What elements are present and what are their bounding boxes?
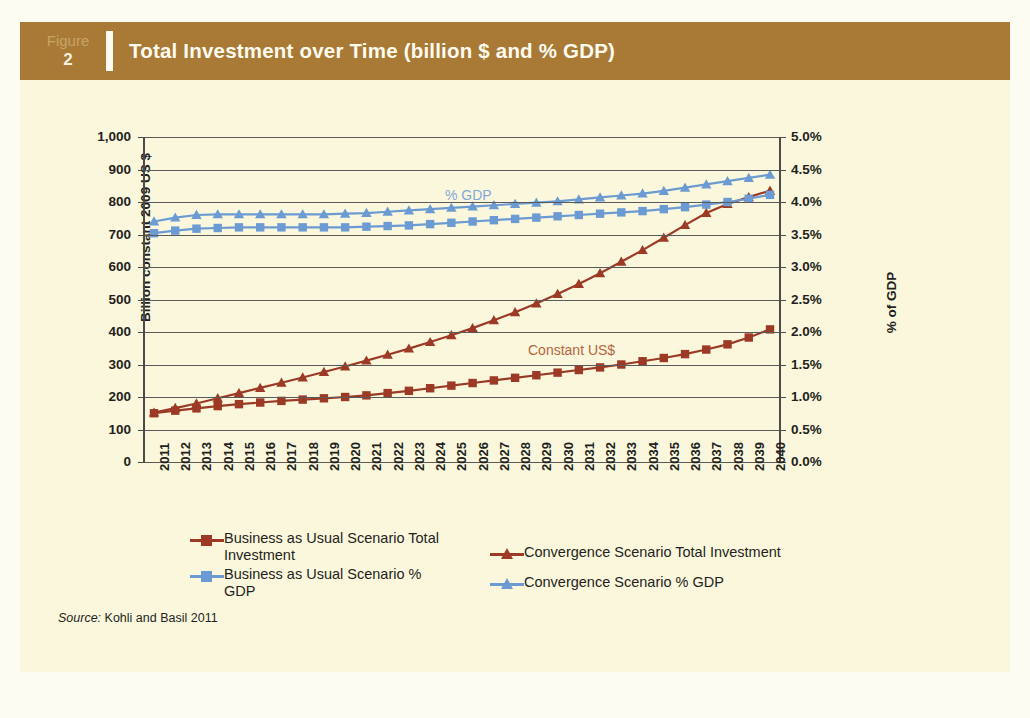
x-axis-tick-label: 2016 — [263, 442, 278, 471]
legend-item[interactable]: Business as Usual Scenario % GDP — [190, 566, 440, 600]
source-text: Kohli and Basil 2011 — [101, 611, 218, 625]
y-axis-tick-right — [779, 430, 786, 431]
y-axis-tick-label-left: 400 — [65, 324, 131, 339]
legend-label: Business as Usual Scenario Total Investm… — [224, 530, 440, 564]
y-axis-tick-label-left: 100 — [65, 422, 131, 437]
series-marker — [681, 350, 689, 358]
y-axis-tick-left — [138, 462, 145, 463]
header-divider-rule — [106, 31, 113, 71]
annotation-pct-gdp: % GDP — [445, 187, 492, 203]
y-axis-tick-left — [138, 137, 145, 138]
series-marker — [575, 211, 583, 219]
series-marker — [235, 223, 243, 231]
gridline — [145, 170, 779, 171]
x-axis-tick-label: 2018 — [306, 442, 321, 471]
series-marker — [235, 400, 243, 408]
series-marker — [616, 257, 626, 266]
series-marker — [511, 215, 519, 223]
x-axis-tick-label: 2029 — [539, 442, 554, 471]
series-marker — [595, 268, 605, 277]
x-axis-tick-label: 2012 — [178, 442, 193, 471]
y-axis-tick-label-left: 500 — [65, 292, 131, 307]
y-axis-tick-right — [779, 235, 786, 236]
x-axis-tick-label: 2031 — [582, 442, 597, 471]
x-axis-tick-label: 2036 — [688, 442, 703, 471]
series-marker — [150, 229, 158, 237]
legend-item[interactable]: Convergence Scenario % GDP — [490, 574, 870, 592]
source-note: Source: Kohli and Basil 2011 — [58, 611, 218, 625]
gridline — [145, 365, 779, 366]
y-axis-tick-label-right: 3.5% — [791, 227, 851, 242]
series-marker — [277, 223, 285, 231]
y-axis-tick-label-right: 4.5% — [791, 162, 851, 177]
x-axis-tick-label: 2033 — [624, 442, 639, 471]
legend-item[interactable]: Convergence Scenario Total Investment — [490, 544, 870, 562]
series-marker — [468, 217, 476, 225]
legend-marker-triangle-icon — [490, 576, 524, 592]
series-marker — [214, 402, 222, 410]
series-marker — [405, 221, 413, 229]
y-axis-tick-right — [779, 267, 786, 268]
series-marker — [298, 223, 306, 231]
y-axis-tick-left — [138, 235, 145, 236]
figure-number: 2 — [63, 50, 72, 69]
chart-area: Billion constant 2009 US $ % of GDP % GD… — [20, 80, 1010, 672]
series-marker — [681, 203, 689, 211]
y-axis-tick-label-right: 0.5% — [791, 422, 851, 437]
y-axis-tick-left — [138, 397, 145, 398]
figure-title: Total Investment over Time (billion $ an… — [129, 39, 615, 63]
series-marker — [362, 223, 370, 231]
y-axis-tick-label-left: 800 — [65, 194, 131, 209]
x-axis-tick-label: 2034 — [646, 442, 661, 471]
y-axis-tick-label-right: 3.0% — [791, 259, 851, 274]
series-marker — [341, 223, 349, 231]
series-marker — [320, 394, 328, 402]
y-axis-tick-left — [138, 365, 145, 366]
gridline — [145, 267, 779, 268]
series-marker — [426, 220, 434, 228]
gridline — [145, 137, 779, 138]
series-marker — [532, 371, 540, 379]
y-axis-tick-label-right: 5.0% — [791, 129, 851, 144]
y-axis-tick-left — [138, 332, 145, 333]
series-marker — [192, 224, 200, 232]
legend-item[interactable]: Business as Usual Scenario Total Investm… — [190, 530, 440, 564]
legend-label: Convergence Scenario % GDP — [524, 574, 724, 591]
y-axis-tick-label-right: 1.5% — [791, 357, 851, 372]
legend-label: Business as Usual Scenario % GDP — [224, 566, 440, 600]
y-axis-tick-label-left: 700 — [65, 227, 131, 242]
x-axis-tick-label: 2022 — [391, 442, 406, 471]
x-axis-tick-label: 2037 — [709, 442, 724, 471]
x-axis-tick-label: 2014 — [221, 442, 236, 471]
x-axis-tick-label: 2011 — [157, 443, 172, 471]
y-axis-tick-label-left: 900 — [65, 162, 131, 177]
figure-page: Figure 2 Total Investment over Time (bil… — [0, 0, 1030, 718]
figure-header-band: Figure 2 Total Investment over Time (bil… — [20, 22, 1010, 80]
x-axis-tick-label: 2019 — [327, 442, 342, 471]
series-marker — [447, 219, 455, 227]
series-line — [154, 191, 770, 413]
figure-word-label: Figure — [47, 33, 90, 49]
plot-area — [143, 137, 781, 462]
y-axis-title-right: % of GDP — [884, 272, 899, 334]
series-marker — [214, 224, 222, 232]
series-marker — [680, 220, 690, 229]
y-axis-tick-left — [138, 202, 145, 203]
series-marker — [637, 245, 647, 254]
series-marker — [553, 368, 561, 376]
x-axis-tick-label: 2040 — [773, 442, 788, 471]
x-axis-tick-label: 2017 — [284, 442, 299, 471]
series-marker — [660, 205, 668, 213]
series-marker — [383, 222, 391, 230]
y-axis-tick-left — [138, 170, 145, 171]
legend-label: Convergence Scenario Total Investment — [524, 544, 781, 561]
y-axis-tick-label-left: 1,000 — [65, 129, 131, 144]
y-axis-tick-label-left: 200 — [65, 389, 131, 404]
source-label: Source: — [58, 611, 101, 625]
y-axis-tick-label-right: 1.0% — [791, 389, 851, 404]
series-marker — [723, 340, 731, 348]
x-axis-tick-label: 2035 — [667, 442, 682, 471]
series-marker — [320, 223, 328, 231]
series-marker — [553, 212, 561, 220]
y-axis-tick-left — [138, 300, 145, 301]
